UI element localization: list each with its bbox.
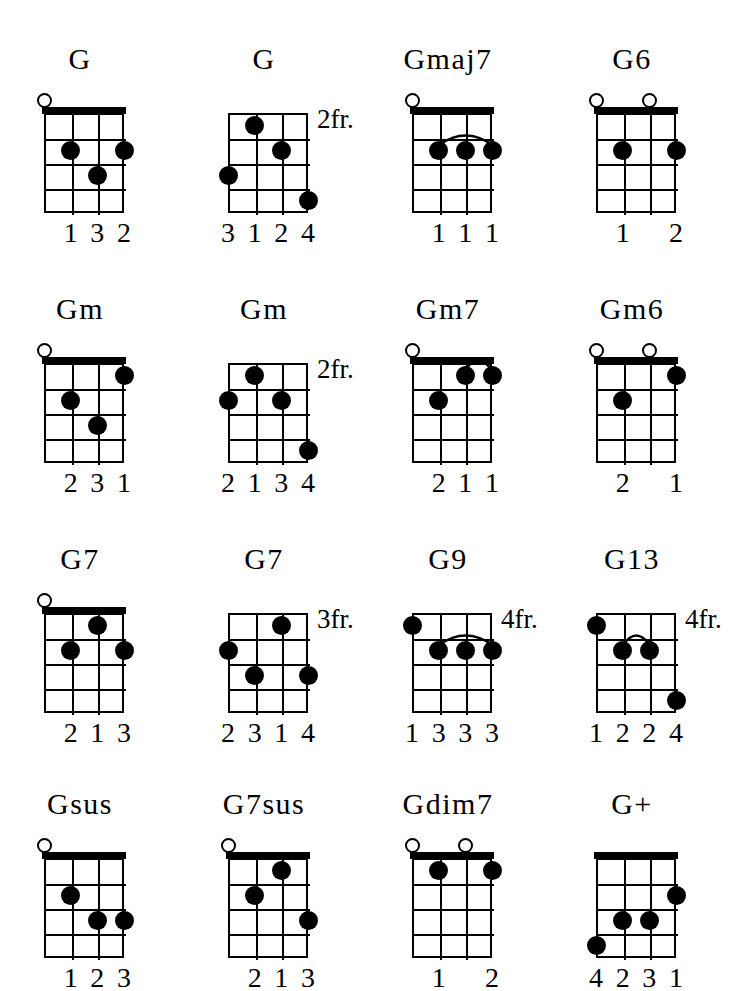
chord-diagram: G2fr.3124 bbox=[184, 18, 368, 263]
finger-dot bbox=[456, 366, 475, 385]
fret-line bbox=[598, 934, 678, 936]
string-line bbox=[72, 365, 74, 465]
fret-line bbox=[414, 664, 494, 666]
finger-numbers: 4231 bbox=[596, 963, 677, 991]
finger-number: 4 bbox=[297, 218, 319, 248]
finger-number: 3 bbox=[297, 963, 319, 991]
finger-numbers: 231 bbox=[44, 468, 125, 502]
finger-number: 1 bbox=[270, 718, 292, 748]
chord-diagram: G612 bbox=[552, 18, 734, 263]
finger-number: 2 bbox=[217, 468, 239, 498]
chord-name: G+ bbox=[552, 789, 712, 819]
finger-number: 2 bbox=[217, 718, 239, 748]
fretboard-grid bbox=[596, 858, 677, 959]
chord-name: G9 bbox=[368, 544, 528, 574]
finger-dot bbox=[88, 911, 107, 930]
chord-diagram: G7sus213 bbox=[184, 763, 368, 991]
open-string-icon bbox=[405, 93, 420, 108]
open-string-icon bbox=[37, 93, 52, 108]
chord-diagram: Gm7211 bbox=[368, 268, 552, 513]
finger-number: 3 bbox=[244, 718, 266, 748]
fretboard-grid bbox=[228, 613, 309, 714]
finger-dot bbox=[272, 616, 291, 635]
finger-numbers: 1224 bbox=[596, 718, 677, 752]
string-line bbox=[72, 615, 74, 715]
finger-dot bbox=[299, 191, 318, 210]
finger-dot bbox=[456, 141, 475, 160]
chord-diagram: Gm2fr.2134 bbox=[184, 268, 368, 513]
fret-line bbox=[598, 189, 678, 191]
finger-dot bbox=[483, 641, 502, 660]
finger-dot bbox=[219, 641, 238, 660]
open-string-icon bbox=[405, 838, 420, 853]
finger-numbers: 211 bbox=[412, 468, 493, 502]
finger-number: 2 bbox=[86, 963, 108, 991]
finger-dot bbox=[456, 641, 475, 660]
finger-number: 1 bbox=[454, 218, 476, 248]
finger-dot bbox=[667, 141, 686, 160]
fret-line bbox=[414, 414, 494, 416]
grid-box bbox=[228, 113, 308, 213]
finger-number: 2 bbox=[481, 963, 503, 991]
finger-number: 2 bbox=[612, 468, 634, 498]
fret-line bbox=[598, 909, 678, 911]
fret-line bbox=[230, 884, 310, 886]
fret-line bbox=[598, 164, 678, 166]
nut-bar bbox=[42, 852, 126, 859]
grid-box bbox=[412, 113, 492, 213]
string-line bbox=[98, 115, 100, 215]
chord-diagram: G+4231 bbox=[552, 763, 734, 991]
fret-line bbox=[414, 439, 494, 441]
chord-diagram: Gm231 bbox=[0, 268, 184, 513]
open-string-icon bbox=[37, 343, 52, 358]
finger-dot bbox=[115, 641, 134, 660]
fret-line bbox=[46, 909, 126, 911]
fret-line bbox=[598, 389, 678, 391]
finger-number: 1 bbox=[665, 963, 687, 991]
chord-name: G bbox=[184, 44, 344, 74]
fret-line bbox=[230, 934, 310, 936]
fret-line bbox=[414, 689, 494, 691]
chord-row: Gsus123G7sus213Gdim712G+4231 bbox=[0, 763, 734, 991]
fret-line bbox=[598, 689, 678, 691]
fretboard-grid bbox=[44, 613, 125, 714]
fretboard-grid bbox=[412, 613, 493, 714]
fret-line bbox=[46, 639, 126, 641]
fret-position-label: 3fr. bbox=[317, 606, 354, 633]
chord-name: G bbox=[0, 44, 160, 74]
fret-line bbox=[46, 689, 126, 691]
grid-box bbox=[228, 613, 308, 713]
fret-line bbox=[230, 639, 310, 641]
string-line bbox=[72, 860, 74, 960]
fret-line bbox=[598, 439, 678, 441]
finger-number: 1 bbox=[244, 468, 266, 498]
fretboard-grid bbox=[44, 113, 125, 214]
nut-bar bbox=[410, 107, 494, 114]
finger-dot bbox=[299, 441, 318, 460]
chord-diagram: G134fr.1224 bbox=[552, 518, 734, 763]
open-string-icon bbox=[221, 838, 236, 853]
finger-numbers: 132 bbox=[44, 218, 125, 252]
finger-number: 2 bbox=[60, 468, 82, 498]
string-line bbox=[98, 860, 100, 960]
fret-line bbox=[598, 139, 678, 141]
fretboard-grid bbox=[412, 363, 493, 464]
chord-diagram: Gmaj7111 bbox=[368, 18, 552, 263]
nut-bar bbox=[410, 852, 494, 859]
finger-number: 3 bbox=[638, 963, 660, 991]
open-string-icon bbox=[458, 838, 473, 853]
finger-number: 4 bbox=[297, 468, 319, 498]
finger-dot bbox=[483, 141, 502, 160]
chord-diagram: Gsus123 bbox=[0, 763, 184, 991]
chord-row: G7213G73fr.2314G94fr.1333G134fr.1224 bbox=[0, 518, 734, 763]
finger-number: 1 bbox=[270, 963, 292, 991]
finger-number: 4 bbox=[297, 718, 319, 748]
finger-dot bbox=[640, 911, 659, 930]
grid-box bbox=[228, 858, 308, 958]
finger-numbers: 12 bbox=[412, 963, 493, 991]
finger-number: 3 bbox=[86, 468, 108, 498]
chord-name: G13 bbox=[552, 544, 712, 574]
finger-dot bbox=[587, 616, 606, 635]
fret-line bbox=[414, 909, 494, 911]
string-line bbox=[650, 115, 652, 215]
